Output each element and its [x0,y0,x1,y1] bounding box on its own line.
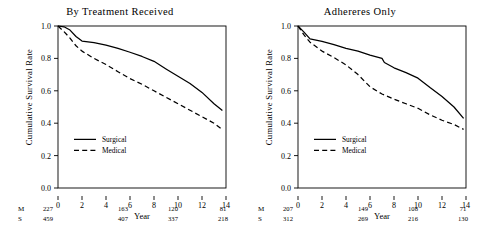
legend-label-medical: Medical [102,146,126,155]
series-line-surgical [298,26,464,118]
y-tick-label: 0.0 [281,184,291,193]
risk-value: 81 [213,205,233,212]
y-tick-label: 0.2 [281,152,291,161]
legend-label-surgical: Surgical [342,135,367,144]
y-tick-label: 1.0 [281,22,291,31]
risk-value: 459 [38,215,58,222]
survival-curves-figure: By Treatment Received Cumulative Surviva… [0,0,481,238]
y-tick-label: 0.4 [41,119,51,128]
risk-row-label-m: M [18,205,24,213]
risk-table-right: M 207 149 108 71 S 312 269 216 130 [240,205,480,231]
risk-value: 207 [278,205,298,212]
risk-value: 130 [453,215,473,222]
risk-row-label-m: M [258,205,264,213]
y-tick-label: 0.2 [41,152,51,161]
y-tick-label: 0.6 [41,87,51,96]
risk-value: 108 [403,205,423,212]
risk-value: 227 [38,205,58,212]
risk-value: 163 [113,205,133,212]
y-tick-label: 0.8 [281,54,291,63]
panel-by-treatment-received: By Treatment Received Cumulative Surviva… [0,0,240,238]
risk-value: 407 [113,215,133,222]
risk-value: 312 [278,215,298,222]
risk-value: 337 [163,215,183,222]
risk-value: 120 [163,205,183,212]
series-line-surgical [58,26,222,111]
risk-value: 269 [353,215,373,222]
legend-label-medical: Medical [342,146,366,155]
y-tick-label: 1.0 [41,22,51,31]
y-tick-label: 0.8 [41,54,51,63]
risk-value: 216 [403,215,423,222]
plot-area-right: 0.00.20.40.60.81.002468101214YearSurgica… [240,0,480,238]
risk-value: 71 [453,205,473,212]
risk-value: 218 [213,215,233,222]
risk-row-label-s: S [18,215,22,223]
risk-table-left: M 227 163 120 81 S 459 407 337 218 [0,205,240,231]
plot-frame [298,26,466,188]
y-tick-label: 0.4 [281,119,291,128]
panel-adherers-only: Adhereres Only Cumulative Survival Rate … [240,0,480,238]
risk-row: S 312 269 216 130 [240,215,480,226]
risk-row: S 459 407 337 218 [0,215,240,226]
plot-frame [58,26,226,188]
legend-label-surgical: Surgical [102,135,127,144]
risk-value: 149 [353,205,373,212]
y-tick-label: 0.0 [41,184,51,193]
y-tick-label: 0.6 [281,87,291,96]
plot-area-left: 0.00.20.40.60.81.002468101214YearSurgica… [0,0,240,238]
risk-row-label-s: S [258,215,262,223]
